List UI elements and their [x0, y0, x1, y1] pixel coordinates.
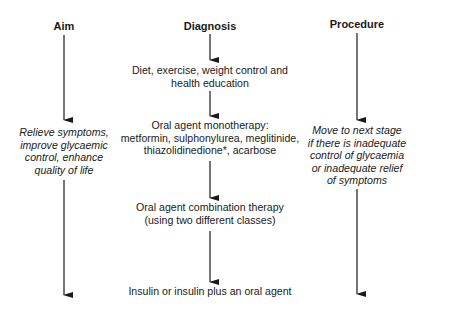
step-line: Insulin or insulin plus an oral agent [110, 285, 310, 298]
step-line: Diet, exercise, weight control and [110, 64, 310, 77]
diagnosis-step-monotherapy: Oral agent monotherapy: metformin, sulph… [100, 119, 320, 157]
aim-line: quality of life [4, 164, 124, 177]
diagnosis-step-insulin: Insulin or insulin plus an oral agent [110, 285, 310, 298]
diagnosis-step-combination: Oral agent combination therapy (using tw… [110, 201, 310, 226]
step-line: thiazolidinedione*, acarbose [100, 144, 320, 157]
diagnosis-header: Diagnosis [160, 20, 260, 33]
aim-header: Aim [34, 20, 94, 33]
procedure-description: Move to next stage if there is inadequat… [297, 124, 417, 187]
step-line: health education [110, 77, 310, 90]
procedure-line: of symptoms [297, 174, 417, 187]
procedure-line: or inadequate relief [297, 162, 417, 175]
procedure-line: Move to next stage [297, 124, 417, 137]
procedure-line: if there is inadequate [297, 137, 417, 150]
step-line: metformin, sulphonylurea, meglitinide, [100, 132, 320, 145]
procedure-line: control of glycaemia [297, 149, 417, 162]
procedure-header: Procedure [307, 18, 407, 31]
step-line: Oral agent monotherapy: [100, 119, 320, 132]
step-line: (using two different classes) [110, 214, 310, 227]
step-line: Oral agent combination therapy [110, 201, 310, 214]
diagnosis-step-lifestyle: Diet, exercise, weight control and healt… [110, 64, 310, 89]
